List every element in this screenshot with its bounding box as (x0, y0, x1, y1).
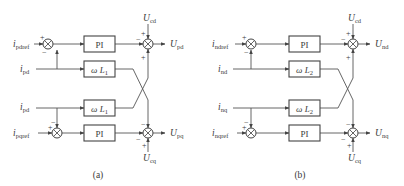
ucq-label: Ucq (143, 153, 157, 164)
svg-text:+: + (242, 123, 247, 132)
sum-junction-right-bottom (348, 128, 358, 138)
sum-junction-right-bottom (143, 128, 153, 138)
omega-l-block-bottom: ω L1 (84, 100, 115, 116)
input-q-meas-label: ipd (20, 102, 30, 113)
ucd-label: Ucd (348, 13, 362, 24)
svg-text:−: − (244, 48, 249, 57)
svg-text:PI: PI (95, 40, 103, 50)
pi-block-top: PI (84, 36, 115, 52)
pi-block-bottom: PI (289, 125, 320, 141)
input-q-ref-label: ipqref (13, 128, 30, 139)
svg-text:−: − (341, 135, 346, 144)
omega-l-block-top: ω L1 (84, 61, 115, 77)
svg-text:PI: PI (300, 40, 308, 50)
panel-b-caption: (b) (294, 170, 305, 181)
svg-text:−: − (341, 35, 346, 44)
svg-text:+: + (347, 141, 352, 150)
pi-block-top: PI (289, 36, 320, 52)
sum-junction-left-bottom (246, 128, 256, 138)
panel-a-caption: (a) (93, 170, 104, 181)
svg-text:+: + (346, 53, 351, 62)
svg-text:PI: PI (300, 129, 308, 139)
upq-output-label: Upq (170, 128, 184, 139)
omega-l-block-top: ω L2 (289, 61, 320, 77)
sum-junction-right-top (348, 39, 358, 49)
svg-text:+: + (141, 53, 146, 62)
svg-text:−: − (346, 120, 351, 129)
ucd-label: Ucd (143, 13, 157, 24)
input-d-ref-label: indref (212, 39, 229, 50)
input-d-ref-label: ipdref (13, 39, 30, 50)
sum-junction-left-bottom (52, 128, 62, 138)
und-output-label: Und (375, 39, 389, 50)
svg-text:+: + (242, 33, 247, 42)
svg-text:+: + (48, 123, 53, 132)
input-d-meas-label: ind (218, 64, 228, 75)
svg-text:−: − (141, 120, 146, 129)
svg-text:−: − (136, 135, 141, 144)
svg-text:−: − (136, 35, 141, 44)
upd-output-label: Upd (170, 39, 184, 50)
input-q-meas-label: inq (218, 102, 228, 113)
svg-text:+: + (142, 141, 147, 150)
control-block-diagram: ipdref ipd ipd ipqref (0, 0, 404, 186)
ucq-label: Ucq (348, 153, 362, 164)
pi-block-bottom: PI (84, 125, 115, 141)
unq-output-label: Unq (375, 128, 389, 139)
svg-text:+: + (40, 33, 45, 42)
panel-a: ipdref ipd ipd ipqref (13, 13, 184, 181)
sum-junction-right-top (143, 39, 153, 49)
svg-text:PI: PI (95, 129, 103, 139)
svg-text:+: + (141, 29, 146, 38)
svg-text:−: − (42, 48, 47, 57)
input-q-ref-label: inqref (212, 128, 229, 139)
panel-b: indref ind inq inqref (212, 13, 389, 181)
input-d-meas-label: ipd (20, 64, 30, 75)
omega-l-block-bottom: ω L2 (289, 100, 320, 116)
svg-text:+: + (346, 29, 351, 38)
